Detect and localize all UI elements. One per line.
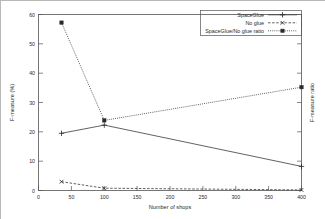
y-tick-label: 30 [29,100,35,106]
x-tick-label: 350 [264,194,273,200]
data-point-marker [60,21,63,24]
x-tick-label: 0 [37,194,40,200]
chart-background [1,1,325,219]
chart-figure: 0 10 20 30 40 50 60 [0,0,325,219]
line-chart: 0 10 20 30 40 50 60 [1,1,325,219]
data-point-marker [103,119,106,122]
y-tick-label: 20 [29,129,35,135]
y-tick-label: 50 [29,41,35,47]
y-tick-label: 10 [29,158,35,164]
legend-label-ratio: SpaceGlue/No glue ratio [205,28,264,34]
x-tick-label: 150 [133,194,142,200]
y-axis-left-title: F-measure (%) [9,84,15,121]
y-tick-label: 40 [29,70,35,76]
y-tick-label: 60 [29,12,35,18]
data-point-marker [300,86,303,89]
x-tick-label: 300 [231,194,240,200]
x-axis-title: Number of shops [149,204,192,210]
x-tick-label: 200 [166,194,175,200]
legend-label-no-glue: No glue [245,20,264,26]
legend-marker-square-icon [281,29,284,32]
y-tick-label: 0 [32,188,35,194]
x-tick-label: 50 [69,194,75,200]
x-tick-label: 250 [199,194,208,200]
x-tick-label: 100 [100,194,109,200]
x-tick-label: 400 [297,194,306,200]
y-axis-right-title: F-measure ratio [309,83,315,122]
legend-label-spaceglue: SpaceGlue [237,12,264,18]
